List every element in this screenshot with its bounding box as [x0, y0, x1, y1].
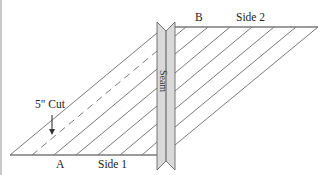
- left-diagonal: [120, 124, 157, 155]
- left-diagonal: [142, 142, 157, 155]
- point-a-label: A: [56, 159, 64, 171]
- seam-label: Seam: [158, 70, 168, 92]
- side-1-label: Side 1: [98, 159, 127, 171]
- point-b-label: B: [195, 12, 203, 24]
- left-diagonal: [98, 106, 157, 155]
- right-diagonal: [175, 27, 230, 73]
- left-diagonal: [54, 69, 157, 155]
- left-parallelogram: [10, 33, 160, 155]
- right-diagonal: [175, 27, 296, 127]
- right-parallelogram: [174, 27, 318, 145]
- right-diagonal: [175, 27, 274, 109]
- right-diagonal: [175, 27, 252, 91]
- left-outer-diagonal: [10, 33, 157, 155]
- left-diagonal: [76, 88, 157, 155]
- right-outer-diagonal: [175, 27, 318, 145]
- seam-band: [157, 22, 175, 170]
- right-diagonal: [175, 27, 186, 36]
- cut-label: 5" Cut: [35, 99, 65, 111]
- side-2-label: Side 2: [236, 12, 265, 24]
